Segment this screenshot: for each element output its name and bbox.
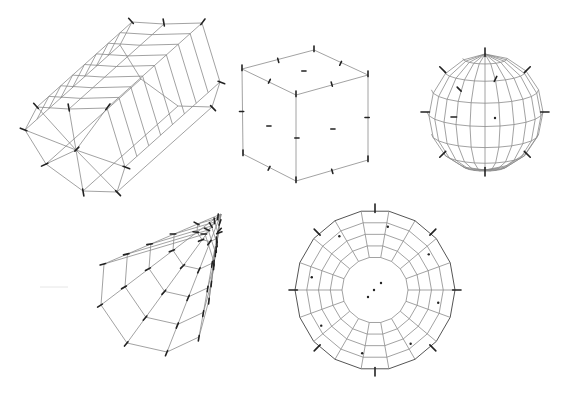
wire-edge (117, 107, 212, 192)
normal-tick (201, 19, 205, 25)
wire-edge (83, 106, 178, 191)
wire-edge (128, 55, 166, 56)
wire-edge (392, 319, 416, 360)
wire-edge (140, 44, 178, 45)
wire-edge (143, 76, 161, 135)
wire-loop (120, 22, 220, 107)
normal-tick (176, 323, 178, 328)
wire-edge (61, 86, 93, 88)
wire-loop (485, 54, 500, 171)
normal-tick (217, 241, 218, 247)
wire-edge (46, 79, 141, 164)
vertex-dot (380, 282, 382, 284)
normal-tick (314, 229, 320, 235)
normal-tick (331, 82, 332, 86)
normal-tick (219, 220, 221, 225)
normal-tick (440, 67, 446, 73)
wire-edge (85, 65, 117, 67)
wire-edge (178, 44, 196, 103)
wire-edge (117, 66, 155, 67)
wire-edge (93, 87, 131, 88)
normal-tick (314, 345, 320, 351)
normal-tick (209, 298, 210, 304)
wire-loop (444, 54, 485, 170)
wire-edge (152, 34, 190, 35)
normal-tick (430, 345, 436, 351)
normal-tick (34, 103, 39, 108)
normal-tick (68, 104, 69, 111)
normal-tick (203, 311, 204, 317)
wire-edge (131, 87, 149, 146)
normal-tick (199, 239, 204, 241)
wire-edge (119, 97, 137, 156)
normal-tick (100, 264, 105, 265)
cube-wireframe (240, 46, 370, 183)
vertex-dot (494, 117, 496, 119)
vertex-dot (409, 343, 411, 345)
wire-edge (105, 76, 143, 77)
normal-tick (332, 169, 333, 173)
wire-edge (73, 75, 105, 77)
wire-edge (46, 150, 76, 164)
normal-tick (193, 232, 199, 233)
wire-edge (76, 150, 125, 167)
wire-edge (166, 55, 184, 114)
normal-tick (123, 166, 130, 168)
vertex-dot (320, 324, 322, 326)
vertex-dot (437, 302, 439, 304)
normal-tick (430, 229, 436, 235)
normal-tick (123, 254, 128, 255)
wire-edge (392, 221, 416, 262)
normal-tick (198, 335, 199, 341)
wire-edge (300, 263, 344, 279)
normal-tick (278, 58, 279, 62)
wire-loop (485, 54, 526, 170)
normal-tick (211, 281, 212, 287)
vertex-dot (428, 253, 430, 255)
wire-edge (25, 130, 76, 150)
wire-loop (149, 226, 217, 297)
vertex-dot (311, 276, 313, 278)
wire-edge (300, 301, 344, 317)
wire-edge (406, 301, 450, 317)
wire-edge (155, 66, 173, 125)
normal-tick (181, 264, 185, 268)
normal-tick (524, 67, 530, 73)
wire-loop (242, 50, 368, 95)
vertex-dot (361, 352, 363, 354)
normal-tick (207, 286, 208, 292)
wire-loop (470, 54, 485, 171)
vertex-dot (367, 296, 369, 298)
wire-edge (81, 97, 119, 98)
wire-edge (96, 54, 128, 56)
wire-edge (335, 319, 359, 360)
wire-edge (49, 96, 81, 98)
wire-edge (108, 43, 140, 45)
cylinder-wireframe (20, 18, 224, 196)
normal-tick (214, 218, 215, 224)
wireframe-primitives-figure (0, 0, 570, 397)
wire-edge (406, 263, 450, 279)
wire-edge (76, 108, 107, 150)
wire-edge (190, 34, 208, 93)
wire-edge (335, 221, 359, 262)
vertex-dot (373, 289, 375, 291)
normal-tick (218, 214, 219, 220)
normal-tick (165, 351, 167, 356)
vertex-dot (387, 226, 389, 228)
normal-tick (147, 244, 153, 245)
sphere-wireframe (421, 48, 549, 176)
cone-wireframe (98, 214, 222, 356)
torus-wireframe (289, 204, 461, 376)
normal-tick (187, 295, 189, 300)
vertex-dot (338, 235, 340, 237)
normal-tick (212, 262, 213, 268)
normal-tick (457, 87, 461, 91)
wire-edge (120, 33, 152, 35)
